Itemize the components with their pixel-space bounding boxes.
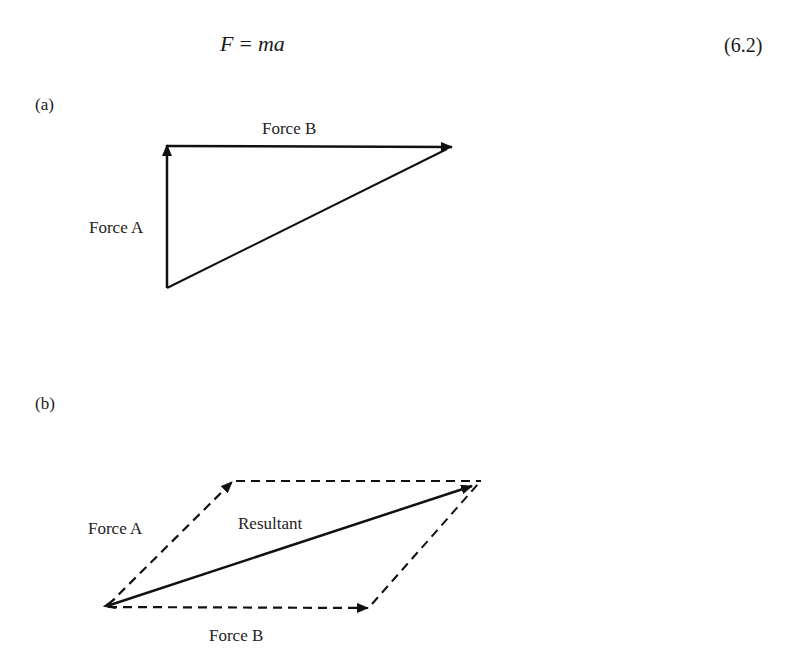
closing-side-line: [167, 149, 447, 288]
force-b-dashed-vector: [108, 607, 368, 608]
force-b-vector: [167, 146, 452, 147]
resultant-vector: [107, 486, 472, 606]
part-b-force-b-label: Force B: [209, 627, 263, 644]
force-diagram: [0, 0, 795, 672]
part-b-resultant-label: Resultant: [238, 515, 302, 532]
part-a-force-a-label: Force A: [89, 219, 143, 236]
part-a-force-b-label: Force B: [262, 120, 316, 137]
part-a-triangle: [167, 145, 452, 288]
part-b-parallelogram: [105, 481, 481, 608]
part-b-force-a-label: Force A: [88, 520, 142, 537]
